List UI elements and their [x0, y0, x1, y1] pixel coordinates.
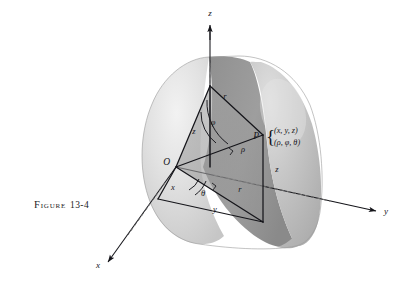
figure-13-4: z y x O P { (x, y, z) (ρ, φ, θ) r z ρ z …	[0, 0, 404, 294]
point-cartesian-label: (x, y, z)	[274, 126, 298, 135]
label-z-right: z	[274, 164, 279, 174]
diagram-canvas: z y x O P { (x, y, z) (ρ, φ, θ) r z ρ z …	[0, 0, 404, 294]
figure-caption-word: Figure	[34, 199, 66, 210]
point-p-label: P	[252, 131, 259, 141]
y-axis-label: y	[383, 206, 388, 216]
figure-caption: Figure13-4	[34, 199, 89, 210]
x-axis-label: x	[95, 260, 100, 270]
origin-label: O	[163, 157, 170, 167]
label-rho-radial: ρ	[240, 144, 245, 154]
figure-caption-number: 13-4	[70, 200, 89, 210]
label-phi-angle: φ	[211, 117, 216, 127]
point-spherical-label: (ρ, φ, θ)	[274, 138, 300, 147]
label-z-vertical: z	[191, 126, 196, 136]
label-theta-angle: θ	[201, 188, 205, 198]
label-x-edge: x	[170, 182, 175, 192]
label-y-edge: y	[212, 204, 217, 214]
z-axis-label: z	[207, 8, 212, 18]
